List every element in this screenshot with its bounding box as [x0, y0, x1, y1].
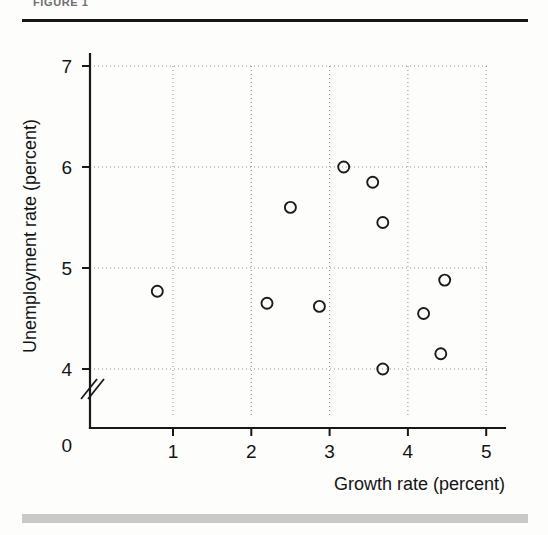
- x-tick-label: 1: [168, 441, 179, 462]
- data-point-marker: [439, 275, 450, 286]
- data-point-marker: [418, 308, 429, 319]
- tick-marks: [82, 66, 486, 436]
- data-point-marker: [285, 202, 296, 213]
- data-point-marker: [377, 217, 388, 228]
- data-point-marker: [262, 298, 273, 309]
- x-axis-title: Growth rate (percent): [334, 474, 505, 494]
- scatter-plot-figure: 7654012345 Growth rate (percent)Unemploy…: [0, 22, 548, 512]
- x-tick-label: 3: [324, 441, 335, 462]
- y-axis-title: Unemployment rate (percent): [20, 119, 40, 353]
- y-tick-label: 5: [61, 258, 72, 279]
- figure-page: FIGURE 1 7654012345 Growth rate (percent…: [0, 0, 548, 535]
- x-tick-label: 5: [481, 441, 492, 462]
- tick-labels: 7654012345: [61, 56, 491, 462]
- y-tick-label: 7: [61, 56, 72, 77]
- gridlines: [90, 66, 488, 418]
- header-text-fragment: FIGURE 1: [33, 0, 193, 9]
- footer-divider: [22, 514, 528, 523]
- y-tick-label: 6: [61, 157, 72, 178]
- data-point-marker: [435, 348, 446, 359]
- data-points: [152, 162, 450, 375]
- x-tick-label: 2: [246, 441, 257, 462]
- y-tick-label: 4: [61, 359, 72, 380]
- x-tick-label: 4: [403, 441, 414, 462]
- data-point-marker: [314, 301, 325, 312]
- data-point-marker: [152, 286, 163, 297]
- origin-label: 0: [61, 435, 72, 456]
- axes: [81, 54, 505, 428]
- data-point-marker: [338, 162, 349, 173]
- plot-canvas: 7654012345 Growth rate (percent)Unemploy…: [0, 22, 548, 512]
- data-point-marker: [367, 177, 378, 188]
